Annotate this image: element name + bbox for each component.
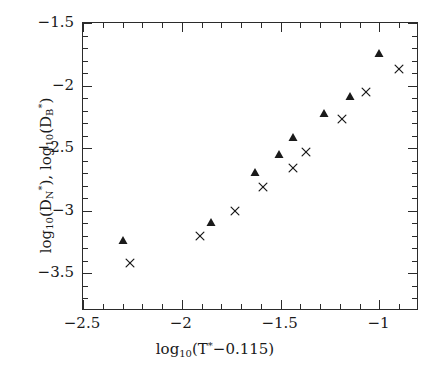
x-tick-major-top — [83, 23, 84, 32]
y-tick-label: −2.5 — [4, 140, 74, 155]
y-tick-minor-right — [412, 161, 417, 162]
data-point-triangle — [118, 236, 127, 244]
data-point-triangle — [320, 109, 329, 117]
y-tick-major — [83, 148, 92, 149]
data-point-cross — [126, 259, 135, 268]
x-tick-label: −1 — [367, 316, 389, 331]
y-tick-major — [83, 273, 92, 274]
x-tick-major-top — [182, 23, 183, 32]
data-point-triangle — [250, 168, 259, 176]
x-tick-major — [182, 300, 183, 309]
x-tick-minor-top — [399, 23, 400, 28]
y-tick-minor — [83, 98, 88, 99]
y-tick-minor — [83, 223, 88, 224]
y-tick-minor — [83, 248, 88, 249]
x-tick-minor-top — [320, 23, 321, 28]
x-tick-major-top — [379, 23, 380, 32]
x-axis-title: log10(T*−0.115) — [0, 340, 430, 359]
y-tick-minor-right — [412, 236, 417, 237]
x-tick-label: −2 — [170, 316, 192, 331]
x-tick-minor — [320, 304, 321, 309]
y-tick-minor — [83, 36, 88, 37]
x-tick-minor-top — [340, 23, 341, 28]
data-point-cross — [337, 115, 346, 124]
data-point-triangle — [375, 49, 384, 57]
y-tick-minor — [83, 123, 88, 124]
y-tick-major — [83, 86, 92, 87]
y-tick-major — [83, 211, 92, 212]
y-tick-minor-right — [412, 186, 417, 187]
x-tick-label: −1.5 — [261, 316, 297, 331]
x-tick-minor — [202, 304, 203, 309]
y-tick-minor — [83, 161, 88, 162]
y-tick-minor — [83, 136, 88, 137]
x-tick-minor-top — [162, 23, 163, 28]
x-tick-major — [281, 300, 282, 309]
x-tick-minor — [162, 304, 163, 309]
y-axis-title-text: log10(DN*), log10(DB*) — [37, 98, 55, 253]
x-tick-major-top — [281, 23, 282, 32]
y-tick-minor-right — [412, 261, 417, 262]
x-tick-minor — [142, 304, 143, 309]
x-tick-major — [379, 300, 380, 309]
x-tick-minor — [241, 304, 242, 309]
y-tick-minor — [83, 261, 88, 262]
y-tick-minor-right — [412, 298, 417, 299]
y-tick-label: −3.5 — [4, 265, 74, 280]
y-tick-major-right — [408, 148, 417, 149]
x-axis-title-text: log10(T*−0.115) — [156, 340, 274, 358]
data-point-cross — [258, 183, 267, 192]
y-tick-minor-right — [412, 198, 417, 199]
x-tick-minor-top — [123, 23, 124, 28]
x-tick-minor — [261, 304, 262, 309]
y-tick-minor-right — [412, 48, 417, 49]
y-tick-minor — [83, 173, 88, 174]
x-tick-minor-top — [142, 23, 143, 28]
y-tick-minor-right — [412, 173, 417, 174]
y-tick-minor-right — [412, 123, 417, 124]
x-tick-minor — [221, 304, 222, 309]
y-tick-minor — [83, 186, 88, 187]
y-tick-minor-right — [412, 223, 417, 224]
y-tick-label: −1.5 — [4, 15, 74, 30]
y-tick-minor-right — [412, 136, 417, 137]
x-tick-minor — [300, 304, 301, 309]
data-point-cross — [395, 65, 404, 74]
data-point-triangle — [274, 150, 283, 158]
x-tick-minor-top — [202, 23, 203, 28]
data-point-cross — [195, 231, 204, 240]
y-tick-minor — [83, 236, 88, 237]
x-tick-minor — [340, 304, 341, 309]
y-tick-minor — [83, 298, 88, 299]
x-tick-minor-top — [221, 23, 222, 28]
y-tick-minor-right — [412, 98, 417, 99]
data-point-cross — [288, 164, 297, 173]
y-tick-major-right — [408, 211, 417, 212]
y-tick-major — [83, 23, 92, 24]
y-tick-minor — [83, 286, 88, 287]
y-tick-label: −3 — [4, 202, 74, 217]
y-tick-minor — [83, 198, 88, 199]
y-tick-minor-right — [412, 36, 417, 37]
y-tick-label: −2 — [4, 77, 74, 92]
plot-area — [82, 22, 418, 310]
y-tick-minor-right — [412, 61, 417, 62]
x-tick-minor-top — [103, 23, 104, 28]
data-point-cross — [361, 87, 370, 96]
x-tick-minor — [123, 304, 124, 309]
x-tick-minor-top — [360, 23, 361, 28]
y-tick-minor — [83, 111, 88, 112]
data-point-triangle — [345, 92, 354, 100]
y-tick-minor — [83, 73, 88, 74]
y-tick-minor-right — [412, 248, 417, 249]
data-point-triangle — [288, 133, 297, 141]
data-point-cross — [231, 206, 240, 215]
y-tick-minor — [83, 48, 88, 49]
y-tick-minor — [83, 61, 88, 62]
x-tick-minor — [399, 304, 400, 309]
y-tick-major-right — [408, 23, 417, 24]
y-tick-minor-right — [412, 111, 417, 112]
y-tick-minor-right — [412, 286, 417, 287]
y-tick-major-right — [408, 86, 417, 87]
x-tick-label: −2.5 — [64, 316, 100, 331]
